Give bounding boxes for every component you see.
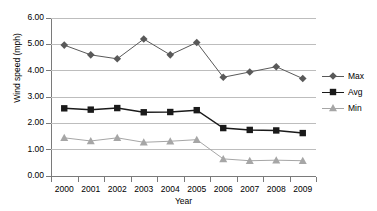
data-point [272,63,280,71]
data-point [220,125,226,131]
data-point [113,134,121,141]
data-point [219,155,227,162]
y-tick-label: 5.00 [0,39,44,48]
data-point [60,41,68,49]
legend-item-avg[interactable]: Avg [322,84,377,100]
x-tick-mark [184,177,185,182]
data-point [113,55,121,63]
x-tick-mark [104,177,105,182]
series-max [60,35,306,82]
data-point [60,134,68,141]
x-tick-mark [51,177,52,182]
x-tick-mark [290,177,291,182]
data-point [299,75,307,83]
y-tick-label: 2.00 [0,118,44,127]
x-tick-mark [263,177,264,182]
series-line-avg [64,108,303,133]
data-point [247,127,253,133]
data-point [88,106,94,112]
legend-item-max[interactable]: Max [322,68,377,84]
data-point [167,109,173,115]
y-tick-label: 0.00 [0,171,44,180]
data-point [273,127,279,133]
x-tick-label-2009: 2009 [283,184,323,194]
legend-marker-icon [322,70,344,82]
data-point [140,35,148,43]
x-tick-mark [237,177,238,182]
x-tick-mark [78,177,79,182]
legend-marker-icon [322,102,344,114]
wind-speed-line-chart: Wind speed (mph) 0.001.002.003.004.005.0… [0,0,377,211]
data-point [166,51,174,59]
legend-label: Max [344,71,364,81]
chart-legend: MaxAvgMin [322,68,377,116]
data-point [300,130,306,136]
data-point [87,51,95,59]
series-min [60,134,307,164]
x-tick-mark [131,177,132,182]
y-tick-label: 3.00 [0,92,44,101]
series-line-max [64,39,303,79]
legend-item-min[interactable]: Min [322,100,377,116]
series-line-min [64,138,303,161]
legend-label: Avg [344,87,363,97]
legend-marker-diamond-icon [329,72,337,80]
data-point [114,105,120,111]
data-point [219,73,227,81]
data-point [193,136,201,143]
legend-marker-square-icon [329,88,337,96]
data-point [193,39,201,47]
data-point [246,68,254,76]
plot-area [51,18,316,176]
legend-marker-triangle-icon [329,104,337,112]
y-tick-label: 4.00 [0,66,44,75]
x-tick-mark [157,177,158,182]
data-point [194,107,200,113]
x-axis-title: Year [51,196,316,206]
y-tick-label: 1.00 [0,145,44,154]
y-tick-label: 6.00 [0,13,44,22]
series-avg [61,105,306,136]
series-layer [51,18,316,176]
legend-marker-icon [322,86,344,98]
x-tick-mark [210,177,211,182]
data-point [61,105,67,111]
x-tick-mark [316,177,317,182]
legend-label: Min [344,103,362,113]
data-point [141,109,147,115]
